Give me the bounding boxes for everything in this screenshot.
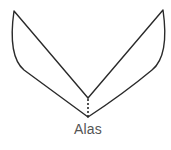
right-wing-shape bbox=[88, 10, 165, 117]
diagram-caption: Alas bbox=[0, 121, 171, 137]
left-wing-shape bbox=[12, 11, 88, 117]
